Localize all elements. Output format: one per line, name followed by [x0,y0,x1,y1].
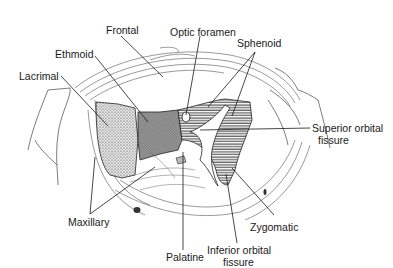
label-palatine: Palatine [166,251,204,263]
label-sphenoid: Sphenoid [237,37,281,49]
palatine-bone [176,156,186,164]
label-ethmoid: Ethmoid [55,48,94,60]
lacrimal-bone [96,102,138,178]
label-maxillary: Maxillary [68,216,109,228]
orbit-diagram: Frontal Optic foramen Ethmoid Sphenoid L… [0,0,393,268]
infraorbital-foramen [134,207,141,213]
label-frontal: Frontal [106,24,139,36]
sphenoid-bone [178,99,252,185]
label-zygomatic: Zygomatic [250,221,298,233]
label-optic-foramen: Optic foramen [170,26,236,38]
label-superior-orbital-fissure-1: Superior orbital [312,122,383,134]
label-inferior-orbital-fissure-2: fissure [223,256,254,268]
nasal-rim [28,88,70,185]
label-lacrimal: Lacrimal [19,70,59,82]
zygomatic-foramen [264,189,267,195]
label-superior-orbital-fissure-2: fissure [318,134,349,146]
label-inferior-orbital-fissure-1: Inferior orbital [207,244,271,256]
